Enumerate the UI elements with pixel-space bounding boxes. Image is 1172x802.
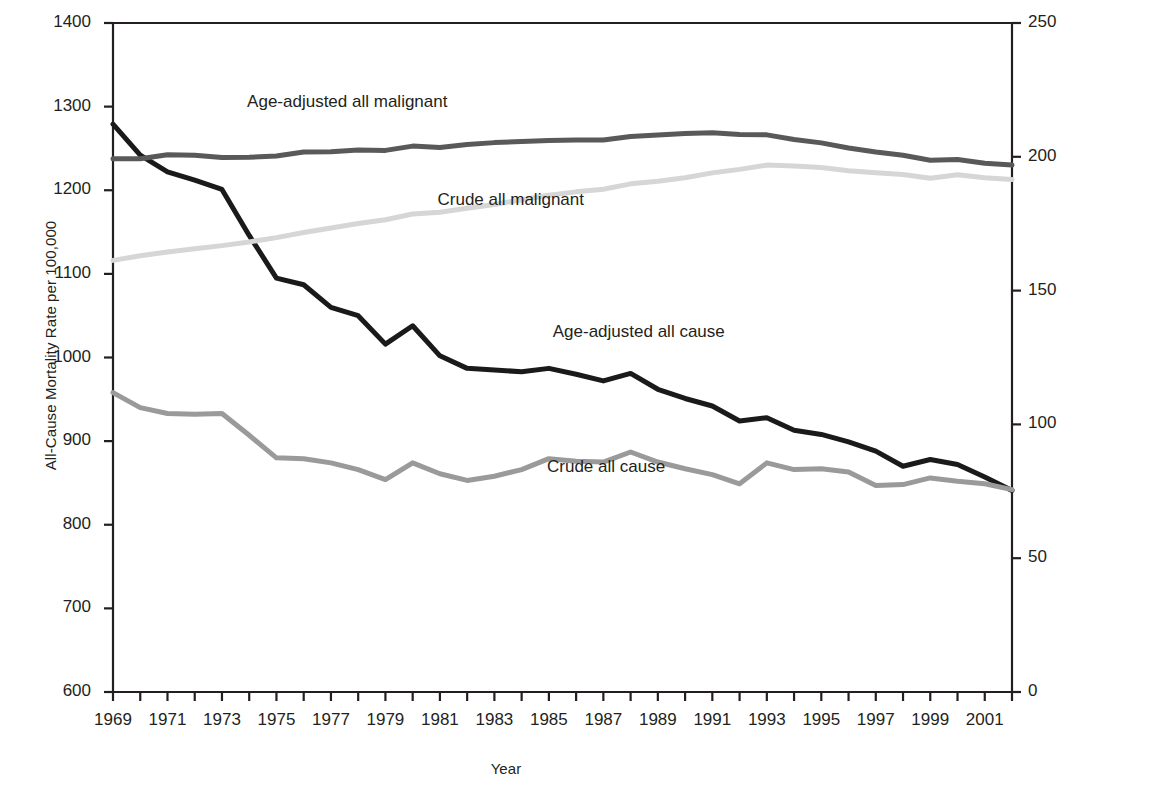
y-axis-left-tick: 600 (21, 681, 91, 701)
y-axis-left-tick: 1000 (21, 347, 91, 367)
y-axis-right-tick: 150 (1028, 280, 1088, 300)
y-axis-right-tick: 200 (1028, 146, 1088, 166)
chart-figure: All-Cause Mortality Rate per 100,000 Yea… (0, 0, 1172, 802)
series-label-crude-all-malignant: Crude all malignant (438, 190, 584, 210)
x-axis-title: Year (0, 760, 1012, 777)
y-axis-left-tick: 1300 (21, 96, 91, 116)
y-axis-right-tick: 0 (1028, 681, 1088, 701)
y-axis-right-tick: 50 (1028, 547, 1088, 567)
y-axis-left-tick: 1100 (21, 263, 91, 283)
series-lines (113, 124, 1012, 490)
series-label-crude-all-cause: Crude all cause (547, 457, 665, 477)
y-axis-left-tick: 800 (21, 514, 91, 534)
y-axis-right-tick: 100 (1028, 413, 1088, 433)
y-axis-right-tick: 250 (1028, 12, 1088, 32)
axes-frame (104, 23, 1021, 701)
chart-plot-area (0, 0, 1172, 802)
y-axis-left-tick: 1400 (21, 12, 91, 32)
series-label-age-adjusted-all-cause: Age-adjusted all cause (553, 322, 725, 342)
x-axis-tick: 2001 (950, 710, 1020, 730)
y-axis-left-tick: 900 (21, 430, 91, 450)
y-axis-left-tick: 1200 (21, 179, 91, 199)
y-axis-left-tick: 700 (21, 597, 91, 617)
series-label-age-adjusted-all-malignant: Age-adjusted all malignant (247, 92, 447, 112)
